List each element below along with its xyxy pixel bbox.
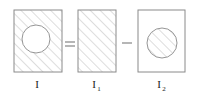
panel-i2 — [138, 10, 185, 72]
panel-i — [14, 10, 62, 72]
label-i2-subscript: 2 — [162, 85, 166, 93]
label-i1-subscript: 1 — [97, 85, 101, 93]
label-i: I — [35, 78, 39, 90]
panel-labels: I I 1 I 2 — [35, 78, 166, 93]
panel-i1 — [78, 10, 116, 72]
figure-canvas: I I 1 I 2 — [0, 0, 197, 98]
panel-i1-hatch-fill — [78, 10, 116, 72]
equals-sign — [65, 42, 75, 46]
label-i2-base: I — [157, 78, 161, 90]
image-decomposition-figure: I I 1 I 2 — [0, 0, 197, 98]
label-i1-base: I — [92, 78, 96, 90]
